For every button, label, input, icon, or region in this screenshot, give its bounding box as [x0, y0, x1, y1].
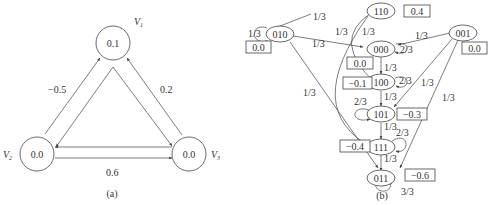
state-101: 101: [367, 106, 395, 122]
svg-text:110: 110: [374, 6, 389, 17]
state-001: 001: [449, 25, 477, 41]
state-011: 011: [367, 170, 395, 186]
svg-text:100: 100: [374, 77, 389, 88]
p-010-011: 1/3: [303, 87, 316, 98]
energy-box-110: 0.4: [404, 5, 430, 17]
p-000-loop: 2/3: [400, 44, 413, 55]
diagram-canvas: 0.1 V1 0.0 V2 0.0 V3 −0.5 0.2 0.6 (a): [0, 0, 490, 205]
svg-text:−0.1: −0.1: [348, 78, 366, 89]
p-010-loop: 1/3: [248, 28, 261, 39]
panel-a: 0.1 V1 0.0 V2 0.0 V3 −0.5 0.2 0.6 (a): [3, 16, 220, 200]
p-001-101: 1/3: [421, 77, 434, 88]
energy-box-001: 0.0: [462, 42, 487, 54]
node-v1-label: V1: [134, 16, 143, 28]
p-100-loop: 2/3: [399, 75, 412, 86]
p-101-111: 1/3: [384, 121, 397, 132]
node-v3-value: 0.0: [183, 149, 196, 160]
svg-text:010: 010: [273, 29, 288, 40]
caption-b: (b): [376, 190, 388, 202]
node-v1: 0.1 V1: [96, 16, 143, 60]
p-110-111: 1/3: [362, 26, 375, 37]
energy-box-010: 0.0: [246, 41, 271, 53]
svg-text:101: 101: [374, 109, 389, 120]
svg-text:0.4: 0.4: [411, 6, 424, 17]
p-001-011: 1/3: [442, 92, 455, 103]
energy-box-011: −0.6: [405, 169, 435, 181]
svg-text:0.0: 0.0: [252, 42, 265, 53]
p-111-loop: 2/3: [396, 127, 409, 138]
p-101-loop: 2/3: [354, 96, 367, 107]
energy-box-100: −0.1: [343, 77, 372, 89]
state-010: 010: [266, 26, 294, 42]
svg-text:0.0: 0.0: [468, 43, 481, 54]
node-v2-value: 0.0: [31, 149, 44, 160]
edge-010-000: [293, 36, 363, 47]
svg-text:0.0: 0.0: [354, 58, 367, 69]
node-v3: 0.0 V3: [172, 137, 220, 171]
weight-v2-v3: 0.6: [106, 167, 119, 178]
edge-v2-to-v1: [45, 58, 100, 134]
svg-text:−0.4: −0.4: [346, 141, 364, 152]
energy-box-101: −0.3: [397, 108, 427, 120]
weight-v1-v3: 0.2: [160, 84, 173, 95]
svg-text:−0.3: −0.3: [403, 109, 421, 120]
node-v1-value: 0.1: [107, 38, 120, 49]
svg-text:111: 111: [374, 142, 388, 153]
p-000-100: 1/3: [384, 62, 397, 73]
caption-a: (a): [106, 188, 117, 200]
edge-v1-to-v3: [113, 67, 172, 146]
svg-text:011: 011: [374, 173, 389, 184]
p-111-011: 1/3: [384, 153, 397, 164]
svg-text:−0.6: −0.6: [411, 170, 429, 181]
p-110-010: 1/3: [313, 11, 326, 22]
node-v2-label: V2: [3, 149, 12, 161]
energy-box-111: −0.4: [340, 140, 370, 152]
p-110-100: 1/3: [335, 26, 348, 37]
svg-text:001: 001: [456, 28, 471, 39]
p-001-000: 1/3: [415, 30, 428, 41]
state-000: 000: [367, 41, 395, 57]
energy-box-000: 0.0: [347, 57, 373, 69]
svg-text:000: 000: [374, 44, 389, 55]
weight-v1-v2: −0.5: [48, 84, 66, 95]
p-100-101: 1/3: [384, 91, 397, 102]
p-010-000: 1/3: [312, 38, 325, 49]
state-110: 110: [367, 3, 395, 19]
node-v3-label: V3: [211, 149, 220, 161]
node-v2: 0.0 V2: [3, 137, 54, 171]
p-011-loop: 3/3: [401, 186, 414, 197]
panel-b: 110 010 000 001 100 101 111 011: [246, 3, 487, 202]
edge-001-011: [400, 40, 458, 168]
